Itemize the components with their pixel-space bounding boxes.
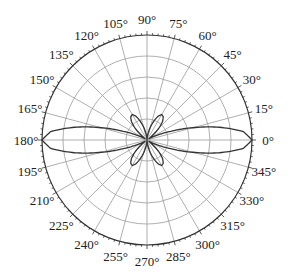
tick-mark xyxy=(213,57,214,59)
tick-mark xyxy=(232,202,234,203)
tick-mark xyxy=(225,68,226,69)
tick-mark xyxy=(200,231,202,234)
tick-mark xyxy=(75,218,76,219)
tick-mark xyxy=(89,50,90,52)
tick-mark xyxy=(80,222,81,224)
tick-mark xyxy=(232,77,234,78)
tick-mark xyxy=(204,50,205,52)
tick-mark xyxy=(238,86,241,88)
angle-label: 150° xyxy=(30,72,55,87)
grid-spoke xyxy=(147,140,200,231)
grid-spoke xyxy=(95,49,148,140)
tick-mark xyxy=(93,46,95,49)
angle-label: 45° xyxy=(223,47,241,62)
angle-label: 90° xyxy=(138,12,156,27)
grid-spoke xyxy=(46,140,147,167)
tick-mark xyxy=(84,225,85,227)
tick-mark xyxy=(200,46,202,49)
grid-spoke xyxy=(56,140,147,193)
tick-mark xyxy=(235,197,237,198)
tick-mark xyxy=(75,60,76,61)
tick-mark xyxy=(93,231,95,234)
angle-label: 315° xyxy=(220,218,245,233)
angle-label: 0° xyxy=(262,133,274,148)
tick-mark xyxy=(221,214,224,217)
angle-label: 300° xyxy=(195,237,220,252)
angle-label: 120° xyxy=(74,28,99,43)
grid-spoke xyxy=(95,140,148,231)
tick-mark xyxy=(67,68,68,69)
grid-spoke xyxy=(46,113,147,140)
tick-mark xyxy=(64,206,66,207)
tick-mark xyxy=(221,63,224,66)
tick-mark xyxy=(60,77,62,78)
angle-label: 225° xyxy=(49,218,74,233)
tick-mark xyxy=(84,53,85,55)
angle-label: 240° xyxy=(74,237,99,252)
angle-label: 30° xyxy=(243,72,261,87)
grid-spoke xyxy=(147,140,238,193)
tick-mark xyxy=(89,228,90,230)
tick-mark xyxy=(209,53,210,55)
polar-chart: 0°15°30°45°60°75°90°105°120°135°150°165°… xyxy=(0,0,294,278)
grid-spoke xyxy=(147,140,248,167)
tick-mark xyxy=(229,206,231,207)
tick-mark xyxy=(70,63,73,66)
tick-mark xyxy=(209,225,210,227)
angle-label: 330° xyxy=(239,193,264,208)
tick-mark xyxy=(217,60,218,61)
tick-mark xyxy=(217,218,218,219)
angle-label: 210° xyxy=(30,193,55,208)
tick-mark xyxy=(80,57,81,59)
grid-spoke xyxy=(147,113,248,140)
tick-mark xyxy=(204,228,205,230)
angle-label: 270° xyxy=(135,254,160,269)
angle-label: 195° xyxy=(18,164,43,179)
tick-mark xyxy=(119,241,120,245)
tick-mark xyxy=(119,35,120,39)
angle-label: 75° xyxy=(169,16,187,31)
angle-label: 345° xyxy=(252,164,277,179)
grid-spoke xyxy=(147,88,238,141)
grid-spoke xyxy=(56,88,147,141)
tick-mark xyxy=(229,73,231,74)
angle-label: 60° xyxy=(198,28,216,43)
tick-mark xyxy=(70,214,73,217)
angle-label: 255° xyxy=(103,249,128,264)
angle-label: 165° xyxy=(18,101,43,116)
angle-label: 105° xyxy=(103,16,128,31)
tick-mark xyxy=(60,202,62,203)
tick-mark xyxy=(235,82,237,83)
tick-mark xyxy=(67,210,68,211)
tick-mark xyxy=(225,210,226,211)
tick-mark xyxy=(57,197,59,198)
tick-mark xyxy=(248,112,252,113)
tick-mark xyxy=(213,222,214,224)
angle-label: 285° xyxy=(166,249,191,264)
tick-mark xyxy=(57,82,59,83)
tick-mark xyxy=(174,35,175,39)
tick-mark xyxy=(174,241,175,245)
angle-label: 15° xyxy=(255,101,273,116)
angle-label: 135° xyxy=(49,47,74,62)
tick-mark xyxy=(64,73,66,74)
angle-label: 180° xyxy=(14,133,39,148)
grid-spoke xyxy=(147,49,200,140)
